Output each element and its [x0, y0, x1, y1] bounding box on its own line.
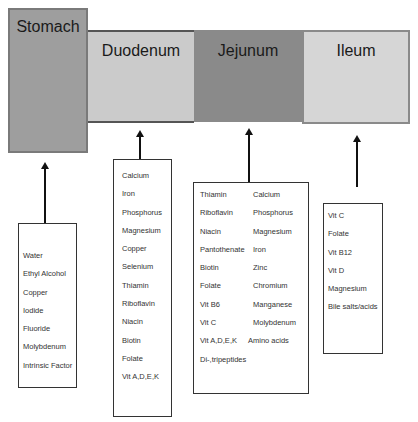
segment-stomach: Stomach [8, 8, 88, 153]
nutrient-item: Vit C [200, 314, 246, 332]
segment-label: Jejunum [194, 42, 302, 60]
nutrient-item: Biotin [200, 259, 246, 277]
segment-duodenum: Duodenum [88, 30, 194, 123]
arrow-up-icon [248, 134, 250, 182]
nutrient-item: Fluoride [23, 320, 76, 338]
nutrient-box-duodenum: Calcium Iron Phosphorus Magnesium Copper… [113, 159, 172, 417]
nutrient-item: Thiamin [200, 186, 246, 204]
nutrient-item: Bile salts/acids [328, 298, 382, 316]
nutrient-item: Selenium [122, 258, 171, 276]
nutrient-item: Copper [23, 284, 76, 302]
nutrient-item: Molybdenum [23, 338, 76, 356]
nutrient-item: Magnesium [253, 223, 296, 241]
nutrient-item: Niacin [122, 313, 171, 331]
nutrient-item: Vit B12 [328, 244, 382, 262]
nutrient-item: Riboflavin [122, 295, 171, 313]
segment-label: Stomach [10, 18, 86, 36]
nutrient-item: Calcium [253, 186, 296, 204]
nutrient-box-ileum: Vit C Folate Vit B12 Vit D Magnesium Bil… [323, 203, 383, 354]
nutrient-item: Di-,tripeptides [200, 351, 246, 369]
nutrient-item: Iodide [23, 302, 76, 320]
nutrient-item: Zinc [253, 259, 296, 277]
nutrient-item: Chromium [253, 277, 296, 295]
nutrient-item: Calcium [122, 167, 171, 185]
nutrient-item: Vit A,D,E,K [200, 332, 246, 350]
segment-label: Ileum [304, 42, 408, 60]
nutrient-item: Molybdenum [253, 314, 296, 332]
nutrient-item: Niacin [200, 223, 246, 241]
nutrient-item: Manganese [253, 296, 296, 314]
nutrient-item: Ethyl Alcohol [23, 265, 76, 283]
arrow-up-icon [44, 168, 46, 223]
segment-jejunum: Jejunum [194, 30, 302, 122]
nutrient-item: Pantothenate [200, 241, 246, 259]
nutrient-item: Folate [200, 277, 246, 295]
nutrient-item: Magnesium [328, 280, 382, 298]
nutrient-item: Amino acids [248, 332, 296, 350]
nutrient-item: Vit A,D,E,K [122, 368, 171, 386]
nutrient-column-minerals: Calcium Phosphorus Magnesium Iron Zinc C… [253, 186, 296, 351]
nutrient-box-stomach: Water Ethyl Alcohol Copper Iodide Fluori… [18, 223, 77, 388]
nutrient-item: Vit D [328, 262, 382, 280]
nutrient-item: Folate [122, 350, 171, 368]
nutrient-item: Intrinsic Factor [23, 357, 76, 375]
nutrient-item: Phosphorus [122, 204, 171, 222]
nutrient-item: Copper [122, 240, 171, 258]
nutrient-item: Vit B6 [200, 296, 246, 314]
nutrient-column-vitamins: Thiamin Riboflavin Niacin Pantothenate B… [200, 186, 246, 369]
nutrient-item: Vit C [328, 207, 382, 225]
nutrient-box-jejunum: Thiamin Riboflavin Niacin Pantothenate B… [193, 182, 309, 394]
nutrient-item: Iron [253, 241, 296, 259]
nutrient-item: Phosphorus [253, 204, 296, 222]
nutrient-item: Water [23, 247, 76, 265]
arrow-up-icon [356, 141, 358, 187]
nutrient-item: Magnesium [122, 222, 171, 240]
nutrient-item: Folate [328, 225, 382, 243]
nutrient-item: Iron [122, 185, 171, 203]
segment-label: Duodenum [88, 42, 194, 60]
arrow-up-icon [139, 136, 141, 159]
segment-ileum: Ileum [302, 30, 410, 124]
nutrient-item: Riboflavin [200, 204, 246, 222]
nutrient-item: Biotin [122, 332, 171, 350]
nutrient-item: Thiamin [122, 277, 171, 295]
